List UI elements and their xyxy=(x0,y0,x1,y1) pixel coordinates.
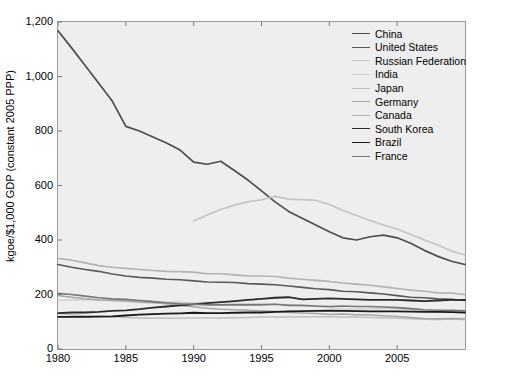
legend-item-label: Germany xyxy=(375,97,418,108)
legend-line-swatch xyxy=(352,88,370,89)
legend-item: South Korea xyxy=(352,122,466,136)
legend-item: India xyxy=(352,68,466,82)
legend-line-swatch xyxy=(352,156,370,157)
legend-item-label: Canada xyxy=(375,110,412,121)
legend-line-swatch xyxy=(352,33,370,34)
legend-item-label: India xyxy=(375,69,398,80)
legend-item: Germany xyxy=(352,95,466,109)
y-axis-title: kgoe/$1,000 GDP (constant 2005 PPP) xyxy=(4,16,16,316)
x-tick-label: 1995 xyxy=(232,353,292,364)
legend-item: France xyxy=(352,149,466,163)
x-tick-label: 1990 xyxy=(164,353,224,364)
x-tick-label: 1980 xyxy=(28,353,88,364)
legend-item-label: China xyxy=(375,29,402,40)
legend-item-label: Brazil xyxy=(375,137,401,148)
legend-item-label: South Korea xyxy=(375,124,433,135)
x-tick-label: 2005 xyxy=(367,353,427,364)
legend-line-swatch xyxy=(352,60,370,61)
legend-line-swatch xyxy=(352,74,370,75)
legend-item-label: United States xyxy=(375,42,438,53)
legend-item-label: Russian Federation xyxy=(375,56,466,67)
legend-item-label: Japan xyxy=(375,83,404,94)
x-tick-label: 2000 xyxy=(299,353,359,364)
legend-item-label: France xyxy=(375,151,408,162)
legend-item: Brazil xyxy=(352,136,466,150)
chart-legend: ChinaUnited StatesRussian FederationIndi… xyxy=(352,27,466,163)
legend-line-swatch xyxy=(352,115,370,116)
legend-line-swatch xyxy=(352,128,370,129)
legend-line-swatch xyxy=(352,47,370,48)
legend-item: Russian Federation xyxy=(352,54,466,68)
legend-item: China xyxy=(352,27,466,41)
legend-item: Canada xyxy=(352,109,466,123)
x-tick-label: 1985 xyxy=(96,353,156,364)
chart-figure: 02004006008001,0001,200 1980198519901995… xyxy=(0,0,512,392)
legend-line-swatch xyxy=(352,101,370,102)
legend-item: Japan xyxy=(352,81,466,95)
legend-item: United States xyxy=(352,41,466,55)
legend-line-swatch xyxy=(352,142,370,143)
